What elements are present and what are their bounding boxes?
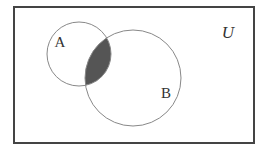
universe-label: U <box>222 23 236 42</box>
universe-rectangle <box>14 7 254 143</box>
set-b-label: B <box>161 85 171 101</box>
set-a-label: A <box>55 34 66 50</box>
venn-diagram: A B U <box>0 0 265 152</box>
